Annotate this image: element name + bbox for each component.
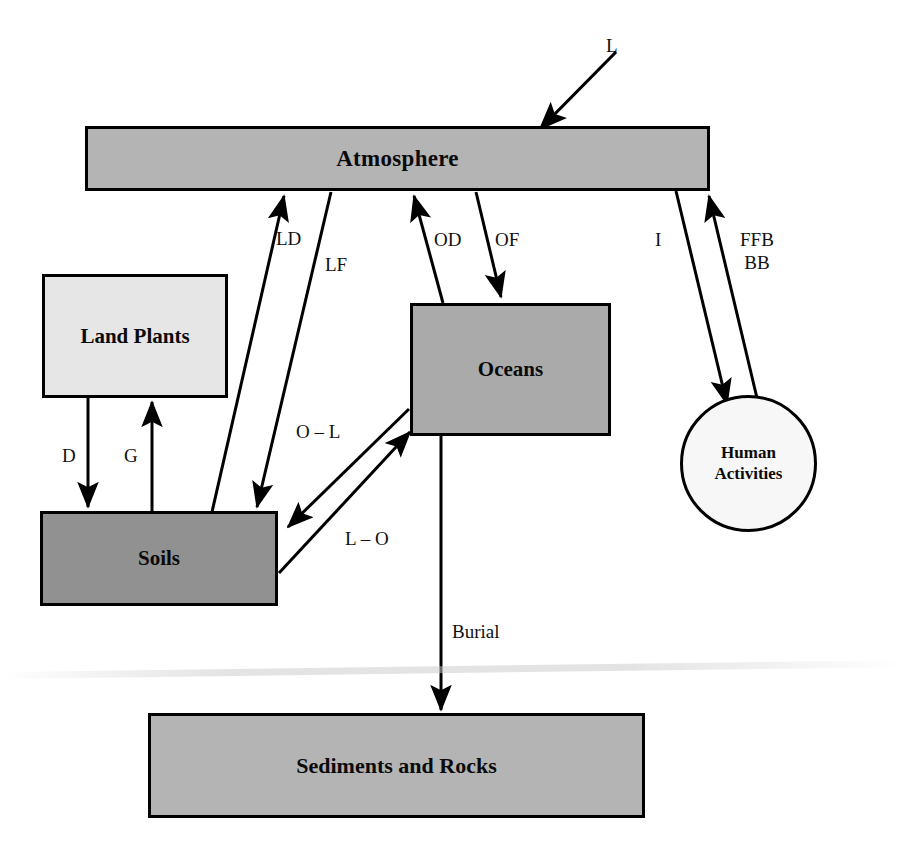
scan-artifact-line bbox=[0, 660, 902, 679]
node-sediments-and-rocks-label: Sediments and Rocks bbox=[296, 753, 496, 779]
flux-label-i: I bbox=[655, 228, 661, 251]
flux-label-od: OD bbox=[434, 228, 461, 251]
arrow-i bbox=[676, 191, 727, 404]
node-atmosphere-label: Atmosphere bbox=[336, 145, 459, 172]
flux-label-lf: LF bbox=[325, 253, 347, 276]
flux-label-ld: LD bbox=[276, 227, 301, 250]
node-oceans-label: Oceans bbox=[478, 357, 543, 382]
node-human-activities[interactable]: Human Activities bbox=[680, 395, 817, 532]
node-sediments-and-rocks[interactable]: Sediments and Rocks bbox=[148, 713, 645, 818]
node-oceans[interactable]: Oceans bbox=[410, 303, 611, 436]
node-human-activities-label: Human Activities bbox=[715, 443, 783, 483]
flux-label-ffb-bb: FFB BB bbox=[740, 228, 774, 274]
node-land-plants-label: Land Plants bbox=[80, 324, 189, 349]
flux-label-of: OF bbox=[495, 228, 519, 251]
flux-label-o-l: O – L bbox=[296, 420, 340, 443]
arrow-l-o bbox=[279, 432, 410, 573]
arrow-l bbox=[540, 52, 616, 129]
node-soils[interactable]: Soils bbox=[40, 511, 278, 606]
flux-label-g: G bbox=[124, 444, 138, 467]
node-soils-label: Soils bbox=[138, 546, 180, 571]
flux-label-d: D bbox=[62, 444, 76, 467]
flux-label-l-o: L – O bbox=[345, 527, 389, 550]
carbon-cycle-diagram: Atmosphere Land Plants Soils Oceans Sedi… bbox=[0, 0, 902, 859]
node-land-plants[interactable]: Land Plants bbox=[42, 274, 228, 398]
node-atmosphere[interactable]: Atmosphere bbox=[85, 126, 710, 191]
arrow-ffb-bb bbox=[709, 196, 757, 398]
flux-label-burial: Burial bbox=[452, 620, 500, 643]
flux-label-l: L bbox=[606, 34, 618, 57]
